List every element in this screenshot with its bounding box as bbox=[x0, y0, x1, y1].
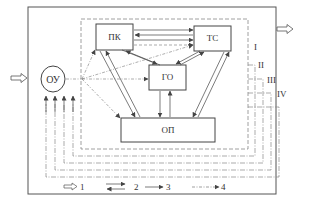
legend: 1 2 3 4 bbox=[64, 182, 226, 192]
legend-4-label: 4 bbox=[221, 182, 226, 192]
output-arrow-icon bbox=[277, 25, 293, 34]
block-ou-label: ОУ bbox=[46, 74, 61, 85]
feedback-arrows bbox=[46, 96, 73, 112]
block-diagram: ОУ ПК ТС ГО ОП I II III IV bbox=[0, 0, 323, 202]
legend-1-label: 1 bbox=[80, 182, 85, 192]
level-i-label: I bbox=[254, 42, 257, 52]
legend-3-label: 3 bbox=[166, 182, 171, 192]
legend-double-arrow-icon bbox=[64, 183, 77, 190]
block-pk-label: ПК bbox=[108, 32, 121, 42]
level-iii-label: III bbox=[267, 75, 276, 85]
block-op-label: ОП bbox=[162, 125, 175, 135]
block-go-label: ГО bbox=[162, 72, 174, 82]
level-iv-label: IV bbox=[277, 89, 287, 99]
level-ii-label: II bbox=[258, 60, 264, 70]
pk-ts-links bbox=[134, 30, 193, 45]
block-ts-label: ТС bbox=[207, 33, 219, 43]
input-arrow-icon bbox=[11, 74, 27, 83]
legend-2-label: 2 bbox=[134, 182, 139, 192]
